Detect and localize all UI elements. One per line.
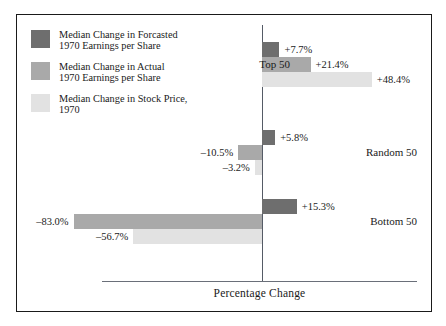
x-axis-label: Percentage Change (102, 287, 417, 299)
bar-value-label: –56.7% (96, 229, 128, 244)
bar-row: –56.7% (17, 229, 433, 244)
bar[interactable] (74, 214, 262, 229)
bar[interactable] (255, 160, 262, 175)
bar-row: +15.3% (17, 199, 433, 214)
bar-value-label: +48.4% (377, 72, 410, 87)
axis-baseline-rule (102, 281, 417, 282)
legend-swatch-stock-price (31, 94, 50, 112)
group-label: Random 50 (307, 146, 417, 158)
bar[interactable] (262, 199, 297, 214)
bar-value-label: +15.3% (302, 199, 335, 214)
bar[interactable] (262, 130, 275, 145)
group-label: Top 50 (180, 58, 290, 70)
bar-value-label: +21.4% (316, 57, 349, 72)
bar-value-label: –3.2% (223, 160, 250, 175)
bar-value-label: +7.7% (284, 42, 312, 57)
bar-row: +5.8% (17, 130, 433, 145)
legend-label-stock-price: Median Change in Stock Price, 1970 (59, 93, 187, 116)
legend-item-stock-price: Median Change in Stock Price, 1970 (31, 93, 231, 116)
bar[interactable] (238, 145, 262, 160)
bar-row: +7.7% (17, 42, 433, 57)
chart-frame: Median Change in Forcasted 1970 Earnings… (16, 14, 432, 312)
bar-value-label: –10.5% (201, 145, 233, 160)
bar[interactable] (262, 42, 279, 57)
bar-row: +48.4% (17, 72, 433, 87)
bar-value-label: +5.8% (280, 130, 308, 145)
bar[interactable] (133, 229, 262, 244)
bar-row: –3.2% (17, 160, 433, 175)
bar[interactable] (262, 72, 372, 87)
plot-area: Median Change in Forcasted 1970 Earnings… (17, 15, 433, 313)
group-label: Bottom 50 (307, 215, 417, 227)
bar-value-label: –83.0% (36, 214, 68, 229)
